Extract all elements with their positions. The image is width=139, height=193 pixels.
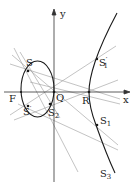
label-s1: S1 — [100, 115, 111, 128]
point-s2 — [49, 103, 52, 106]
label-s3: S3 — [100, 168, 111, 181]
cubic-curve — [21, 13, 117, 173]
cubic-curve-diagram: y x S S′ F Q S2 R S′1 S1 S3 — [0, 0, 139, 193]
point-s1-prime — [96, 58, 98, 60]
unbounded-branch — [89, 13, 117, 173]
y-axis-label: y — [59, 8, 66, 19]
point-r — [88, 91, 91, 94]
label-f: F — [9, 93, 16, 104]
x-axis-label: x — [123, 94, 129, 105]
point-q — [53, 91, 56, 94]
label-s: S — [26, 57, 33, 68]
point-f — [20, 91, 22, 93]
axes — [4, 9, 130, 182]
y-axis-arrow-icon — [52, 9, 56, 15]
point-s — [27, 70, 30, 73]
label-s-prime: S′ — [23, 105, 32, 117]
line-s-s1 — [12, 55, 118, 145]
point-s1 — [96, 124, 99, 127]
label-r: R — [82, 95, 90, 106]
label-s1-prime: S′1 — [99, 56, 108, 70]
label-q: Q — [56, 92, 64, 103]
